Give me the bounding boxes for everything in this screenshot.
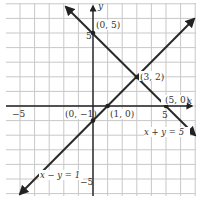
tick-x-neg5: −5 <box>12 109 26 119</box>
point-1-0 <box>105 104 110 109</box>
tick-y-neg5: −5 <box>80 177 94 187</box>
point-3-2 <box>135 75 140 80</box>
label-point-5-0: (5, 0) <box>165 95 189 105</box>
equation-x-minus-y-eq-1: x − y = 1 <box>40 170 80 180</box>
coordinate-graph: y x −5 5 5 −5 (0, 5) (3, 2) (5, 0) (1, 0… <box>0 0 199 206</box>
y-axis-label: y <box>97 1 104 11</box>
tick-x-5: 5 <box>162 110 168 120</box>
label-point-3-2: (3, 2) <box>140 72 164 82</box>
equation-x-plus-y-eq-5: x + y = 5 <box>144 127 184 137</box>
tick-y-5: 5 <box>86 31 92 41</box>
label-point-0-neg1: (0, −1) <box>65 109 97 119</box>
label-point-1-0: (1, 0) <box>110 109 134 119</box>
label-point-0-5: (0, 5) <box>96 20 120 30</box>
